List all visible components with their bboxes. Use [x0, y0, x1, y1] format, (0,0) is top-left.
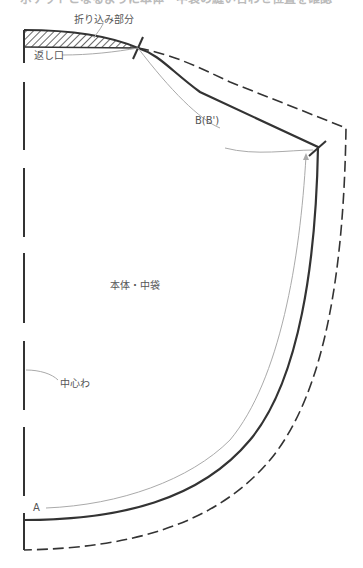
label-return-opening: 返し口 — [34, 50, 64, 62]
finished-outline — [24, 48, 318, 520]
label-point-b: B(B') — [195, 115, 219, 127]
pattern-diagram — [0, 0, 363, 568]
label-main-body: 本体・中袋 — [110, 280, 160, 292]
seam-allowance-outline — [24, 48, 346, 550]
label-fold-in-part: 折り込み部分 — [74, 14, 134, 26]
label-center-fold: 中心わ — [60, 378, 90, 390]
label-point-a: A — [33, 502, 40, 514]
fold-in-hatch-area — [24, 30, 138, 48]
leader-lines — [26, 24, 313, 508]
arrow-head — [303, 153, 309, 160]
